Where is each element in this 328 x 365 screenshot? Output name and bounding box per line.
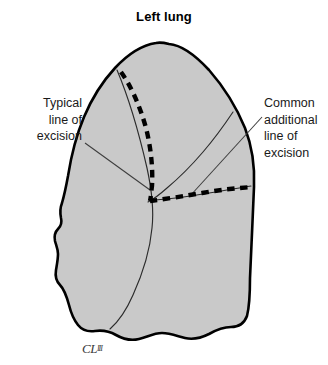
artist-signature-initials: CL (82, 341, 97, 356)
lung-outline-shape (55, 43, 255, 340)
label-typical-line-of-excision: Typical line of excision (6, 95, 82, 145)
figure-container: Left lung Typical line of excision Commo… (0, 0, 328, 365)
artist-signature-mark: III (97, 344, 102, 353)
artist-signature: CLIII (82, 341, 102, 357)
label-common-additional-line-of-excision: Common additional line of excision (264, 95, 328, 161)
left-lung-diagram (0, 0, 328, 365)
